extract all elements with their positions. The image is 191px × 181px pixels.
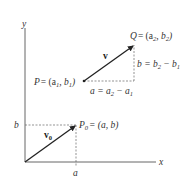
x-tick-a: a [73, 168, 78, 178]
component-horizontal-label: a = a2 − a1 [90, 86, 133, 97]
vector-v [84, 46, 133, 81]
vector-v0-label: v0 [44, 130, 52, 141]
point-p0-label: P0= (a, b) [78, 120, 118, 131]
vector-v-label: v [103, 51, 108, 61]
x-axis-label: x [158, 157, 164, 167]
vector-diagram: y x b a v0 P0= (a, b) v P= (a1, b1) Q= (… [0, 0, 191, 181]
y-axis-label: y [21, 19, 27, 29]
vector-v0 [25, 126, 75, 162]
component-vertical-label: b = b2 − b1 [137, 59, 180, 70]
point-p-label: P= (a1, b1) [33, 77, 75, 88]
point-q-label: Q= (a2, b2) [130, 31, 172, 42]
y-tick-b: b [14, 120, 19, 130]
diagram-canvas: y x b a v0 P0= (a, b) v P= (a1, b1) Q= (… [0, 0, 191, 181]
